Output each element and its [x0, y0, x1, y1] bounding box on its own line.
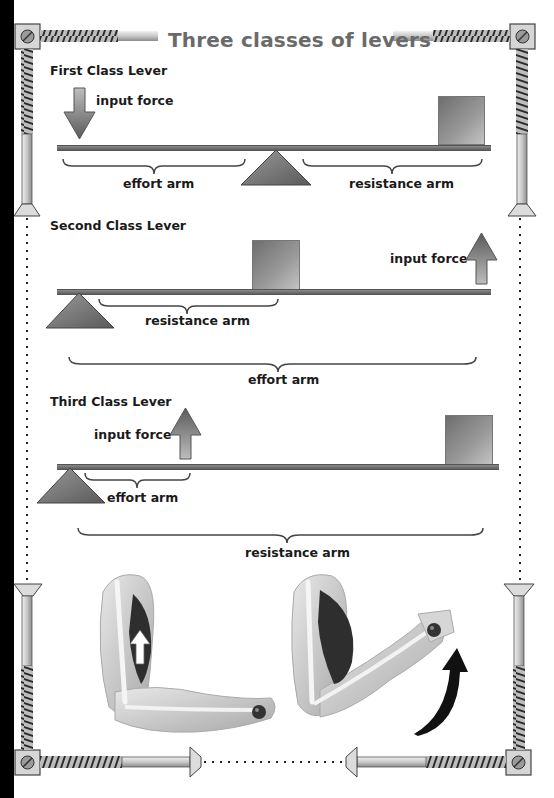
- first-resistance-arm-label: resistance arm: [349, 176, 454, 191]
- input-force-up-arrow-icon: [466, 233, 498, 285]
- second-effort-arm-label: effort arm: [248, 372, 319, 387]
- first-effort-arm-label: effort arm: [123, 176, 194, 191]
- first-class-lever-title: First Class Lever: [50, 63, 167, 78]
- first-input-force-label: input force: [96, 93, 173, 108]
- third-class-lever-title: Third Class Lever: [50, 394, 172, 409]
- third-resistance-arm-brace: [77, 527, 485, 545]
- third-resistance-arm-label: resistance arm: [245, 545, 350, 560]
- first-resistance-load: [438, 96, 485, 145]
- third-effort-arm-label: effort arm: [107, 490, 178, 505]
- first-resistance-arm-brace: [302, 158, 484, 176]
- page-title: Three classes of levers: [168, 28, 431, 52]
- second-resistance-arm-label: resistance arm: [145, 313, 250, 328]
- curved-up-arrow-icon: [410, 646, 470, 736]
- input-force-up-arrow-icon: [170, 408, 202, 460]
- third-lever-beam: [57, 464, 499, 470]
- second-resistance-load: [252, 240, 300, 290]
- input-force-down-arrow-icon: [64, 88, 96, 140]
- first-effort-arm-brace: [62, 158, 247, 176]
- corner-screw-top-right: [510, 24, 535, 49]
- third-effort-arm-brace: [84, 472, 192, 490]
- second-input-force-label: input force: [390, 251, 467, 266]
- second-class-lever-title: Second Class Lever: [50, 218, 186, 233]
- third-resistance-load: [445, 415, 493, 465]
- third-input-force-label: input force: [94, 427, 171, 442]
- second-lever-beam: [57, 289, 491, 295]
- corner-screw-bottom-right: [506, 750, 531, 775]
- corner-screw-top-left: [15, 24, 40, 49]
- arm-extended-illustration: [95, 572, 280, 742]
- corner-screw-bottom-left: [15, 750, 40, 775]
